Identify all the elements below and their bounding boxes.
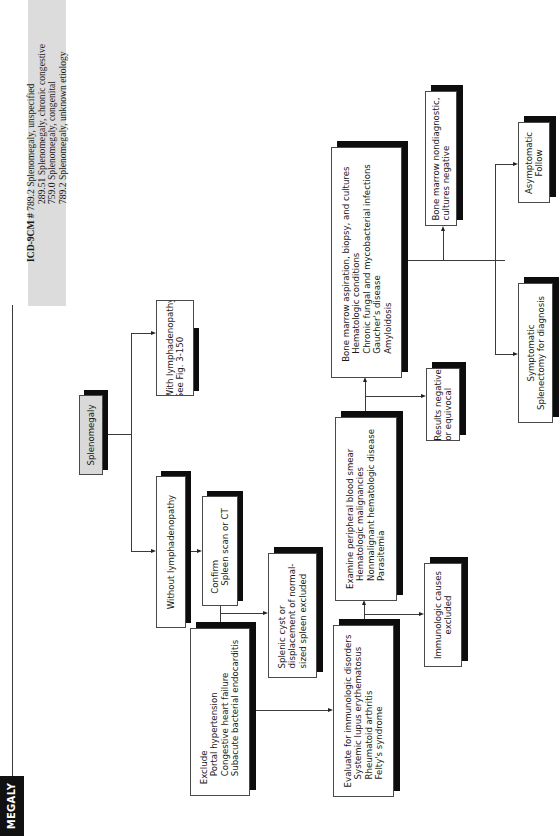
connector <box>131 333 152 334</box>
node-text: Symptomatic Splenectomy for diagnosis <box>525 296 546 410</box>
icd-code-panel: ICD-9CM # 789.2 Splenomegaly, unspecifie… <box>28 0 66 306</box>
node-text: Asymptomatic Follow <box>524 131 545 193</box>
node-examine-blood-smear: Examine peripheral blood smear Hematolog… <box>335 417 397 601</box>
node-exclude: Exclude Portal hypertension Congestive h… <box>190 628 250 796</box>
icd-code: 789.2 Splenomegaly, unknown etiology <box>58 44 69 262</box>
node-evaluate-immunologic: Evaluate for immunologic disorders Syste… <box>333 625 394 797</box>
icd-code-list: ICD-9CM # 789.2 Splenomegaly, unspecifie… <box>26 44 68 262</box>
node-text: Without lymphadenopathy <box>166 495 176 609</box>
node-with-lymphadenopathy: With lymphadenopathy See Fig. 3-150 <box>156 300 194 396</box>
node-bone-marrow-aspiration: Bone marrow aspiration, biopsy, and cult… <box>331 147 402 378</box>
node-asymptomatic: Asymptomatic Follow <box>518 122 550 203</box>
connector <box>131 333 132 551</box>
section-title: MEGALY <box>7 783 17 830</box>
node-text: Bone marrow aspiration, biopsy, and cult… <box>340 164 392 362</box>
arrow-head-icon <box>441 226 445 231</box>
icd-code: 789.2 Splenomegaly, unspecified <box>25 84 36 211</box>
node-text: Immunologic causes excluded <box>433 571 454 659</box>
icd-label: ICD-9CM # <box>25 213 36 262</box>
node-text: Splenomegaly <box>86 404 96 465</box>
connector <box>495 164 496 354</box>
connector <box>131 551 152 552</box>
node-text: Results negative or equivocal <box>433 369 454 440</box>
connector <box>250 710 329 711</box>
node-text: Evaluate for immunologic disorders Syste… <box>343 635 385 788</box>
node-immunologic-excluded: Immunologic causes excluded <box>424 563 462 667</box>
margin-rule <box>12 305 13 776</box>
node-symptomatic: Symptomatic Splenectomy for diagnosis <box>518 283 553 423</box>
node-text: Bone marrow nondiagnostic, cultures nega… <box>431 97 452 220</box>
node-confirm: Confirm Spleen scan or CT <box>202 496 238 606</box>
connector <box>402 260 505 261</box>
section-title-tab: MEGALY <box>0 776 24 836</box>
node-without-lymphadenopathy: Without lymphadenopathy <box>156 476 186 628</box>
node-bone-marrow-nondiagnostic: Bone marrow nondiagnostic, cultures nega… <box>425 91 457 226</box>
node-splenomegaly: Splenomegaly <box>79 395 103 475</box>
node-results-negative: Results negative or equivocal <box>426 368 460 441</box>
node-text: Splenic cyst or displacement of normal- … <box>277 563 308 668</box>
connector <box>443 229 444 260</box>
connector <box>220 613 264 614</box>
node-text: With lymphadenopathy See Fig. 3-150 <box>165 300 186 396</box>
connector <box>364 614 420 615</box>
node-text: Exclude Portal hypertension Congestive h… <box>199 640 241 785</box>
connector <box>495 354 514 355</box>
connector <box>365 396 422 397</box>
node-text: Confirm Spleen scan or CT <box>210 508 231 593</box>
node-text: Examine peripheral blood smear Hematolog… <box>345 429 387 589</box>
node-splenic-cyst-excluded: Splenic cyst or displacement of normal- … <box>268 553 317 678</box>
connector <box>495 164 514 165</box>
